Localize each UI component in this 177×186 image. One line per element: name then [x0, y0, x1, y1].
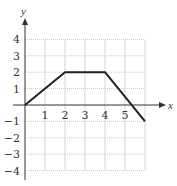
x-tick-label: 2: [62, 109, 69, 122]
y-tick-label: 1: [13, 83, 20, 96]
y-tick-label: −4: [4, 165, 20, 178]
y-tick-label: −3: [4, 148, 20, 161]
y-tick-labels: 4321−1−2−3−4: [4, 33, 20, 177]
x-tick-label: 5: [122, 109, 129, 122]
x-axis-label: x: [167, 99, 173, 111]
x-tick-labels: 12345: [42, 109, 129, 122]
x-tick-label: 3: [82, 109, 89, 122]
axes: x y: [13, 5, 173, 180]
y-axis-label: y: [20, 5, 26, 17]
y-tick-label: −2: [4, 132, 20, 145]
y-tick-label: −1: [4, 115, 20, 128]
x-axis-arrow-icon: [159, 102, 166, 108]
y-tick-label: 2: [13, 66, 20, 79]
y-axis-arrow-icon: [22, 18, 28, 25]
y-tick-label: 3: [13, 50, 20, 63]
y-tick-label: 4: [13, 33, 20, 46]
x-tick-label: 1: [42, 109, 49, 122]
chart: x y 12345 4321−1−2−3−4: [0, 0, 177, 186]
x-tick-label: 4: [102, 109, 109, 122]
